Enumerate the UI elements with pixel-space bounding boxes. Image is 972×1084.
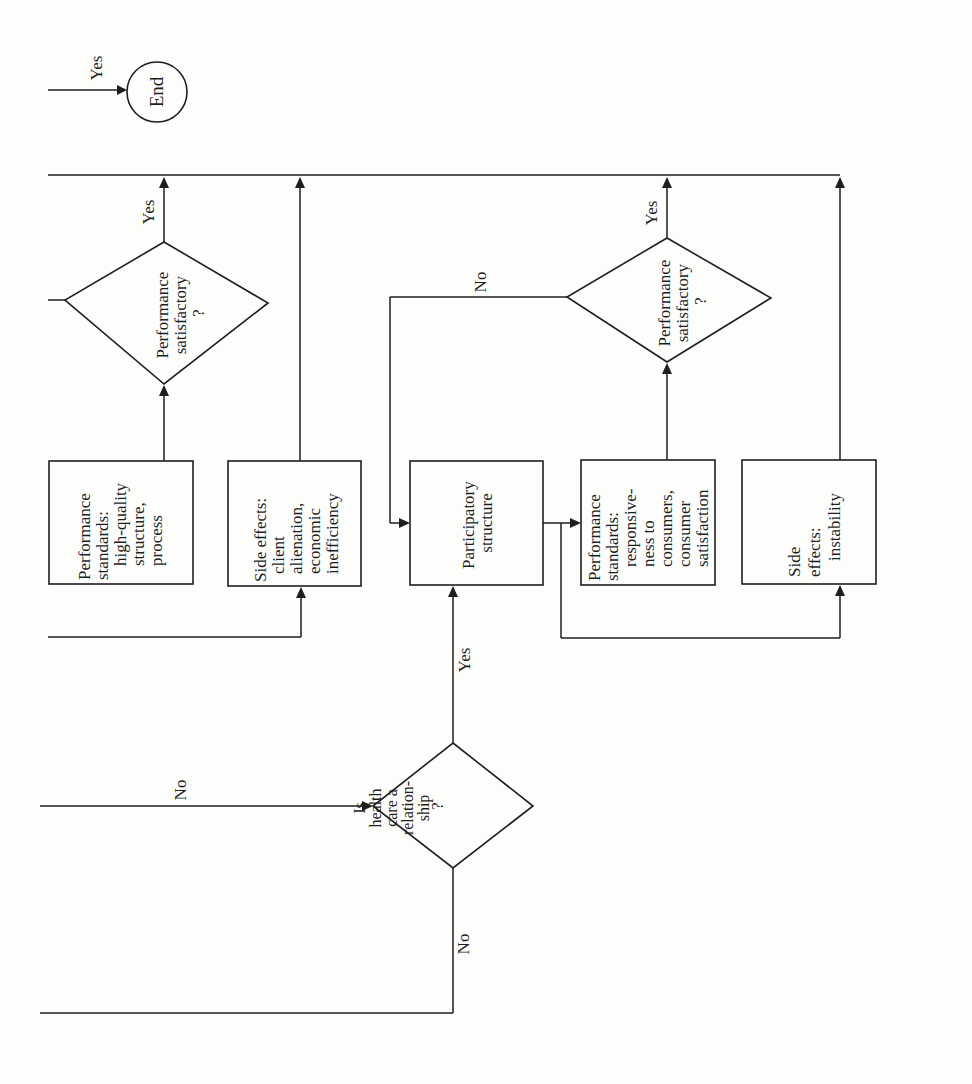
svg-text:Participatory structure: Participatory structure <box>459 477 496 569</box>
d2-line-3: ? <box>691 297 710 305</box>
end-terminal: End Yes <box>48 56 187 122</box>
arrowhead-icon <box>117 85 127 95</box>
p5-line-1: Side <box>785 547 804 577</box>
d1-line-3: ? <box>189 309 208 317</box>
d3-line-6: ? <box>429 802 446 809</box>
d1-line-2: satisfactory <box>171 275 190 354</box>
process-participatory-structure: Participatory structure <box>410 461 543 585</box>
arrowhead-icon <box>448 586 458 597</box>
p4-line-7: satisfaction <box>693 489 712 567</box>
d3-line-1: Is <box>351 802 368 814</box>
arrowhead-icon <box>835 585 845 596</box>
p4-line-3: responsive- <box>621 488 640 567</box>
p3-line-1: Participatory <box>459 481 478 569</box>
arrowhead-icon <box>296 587 306 598</box>
p1-line-5: process <box>147 515 166 566</box>
p4-line-6: consumer <box>675 501 694 567</box>
p4-line-5: consumers, <box>657 490 676 567</box>
d3-line-2: health <box>367 788 384 827</box>
p4-line-2: standards: <box>603 512 622 581</box>
p1-line-2: standards: <box>93 511 112 580</box>
p3-line-2: structure <box>477 493 496 552</box>
edge-label-d2-yes: Yes <box>642 201 661 226</box>
p2-line-1: Side effects: <box>251 498 270 582</box>
edge-label-d1-yes: Yes <box>139 200 158 225</box>
p2-line-5: inefficiency <box>323 493 342 574</box>
p1-line-3: high-quality <box>111 482 130 566</box>
p1-line-4: structure, <box>129 502 148 566</box>
process-side-effects-instability: Side effects: instability <box>742 177 876 584</box>
arrowhead-icon <box>662 363 672 374</box>
process-performance-standards-quality: Performance standards: high-quality stru… <box>49 461 193 584</box>
arrowhead-icon <box>159 385 169 396</box>
arrowhead-icon <box>295 177 305 188</box>
d3-line-3: care a <box>383 789 400 827</box>
svg-text:Is health care a: Is health care a relation- ship ? <box>351 777 446 835</box>
p2-line-3: alienation, <box>287 503 306 574</box>
process-side-effects-alienation: Side effects: client alienation, economi… <box>228 177 361 586</box>
edge-label-d2-no: No <box>471 272 490 293</box>
d2-line-2: satisfactory <box>673 263 692 342</box>
edge-label-d3-no: No <box>454 934 473 955</box>
svg-text:Side effects: client: Side effects: client alienation, economi… <box>251 493 342 582</box>
p2-line-4: economic <box>305 507 324 574</box>
p1-line-1: Performance <box>75 493 94 580</box>
flowchart: End Yes Yes Performance satisfactory ? P… <box>0 0 972 1084</box>
arrowhead-icon <box>399 518 410 528</box>
svg-text:Performance standards:: Performance standards: responsive- ness … <box>585 484 712 581</box>
process-performance-standards-responsiveness: Performance standards: responsive- ness … <box>581 460 715 585</box>
decision-performance-satisfactory-1: Yes Performance satisfactory ? <box>48 177 268 384</box>
p4-line-4: ness to <box>639 520 658 567</box>
svg-text:Side effects: inst: Side effects: instability <box>785 493 844 578</box>
arrowhead-icon <box>662 177 672 188</box>
p5-line-3: instability <box>825 493 844 562</box>
edge-label-to-end: Yes <box>87 56 106 81</box>
arrowhead-icon <box>570 518 581 528</box>
svg-text:Performance satisfactory: Performance satisfactory ? <box>655 255 710 346</box>
d3-line-4: relation- <box>399 781 416 835</box>
p2-line-2: client <box>269 536 288 574</box>
d2-line-1: Performance <box>655 260 674 347</box>
arrowhead-icon <box>835 177 845 188</box>
end-label: End <box>146 76 167 107</box>
edge-label-d3-yes: Yes <box>455 648 474 673</box>
svg-text:Performance standards:: Performance standards: high-quality stru… <box>75 479 166 580</box>
edge-label-d3-in-no: No <box>171 780 190 801</box>
svg-text:Performance satisfactory: Performance satisfactory ? <box>153 267 208 358</box>
p5-line-2: effects: <box>805 527 824 577</box>
d1-line-1: Performance <box>153 272 172 359</box>
p4-line-1: Performance <box>585 494 604 581</box>
decision-health-care-relationship: No Yes No Is health care a relation- shi… <box>40 586 533 1013</box>
arrowhead-icon <box>159 177 169 188</box>
